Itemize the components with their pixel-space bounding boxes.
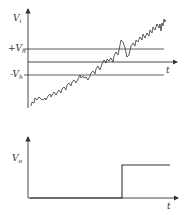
- diagram-canvas: [0, 0, 185, 215]
- lower-threshold-label: -Vh: [10, 70, 23, 80]
- bottom-x-axis-label: t: [167, 202, 171, 211]
- input-signal-graph: [24, 9, 177, 108]
- noisy-input-waveform: [31, 19, 166, 106]
- output-signal-graph: [28, 137, 178, 198]
- top-y-axis-label: Vi: [13, 14, 21, 24]
- output-step-waveform: [30, 165, 170, 198]
- schmitt-trigger-diagram: Vi +Vh -Vh t Vo t: [0, 0, 185, 215]
- bottom-y-axis-label: Vo: [12, 154, 22, 164]
- top-x-axis-label: t: [166, 66, 170, 75]
- upper-threshold-label: +Vh: [8, 44, 26, 54]
